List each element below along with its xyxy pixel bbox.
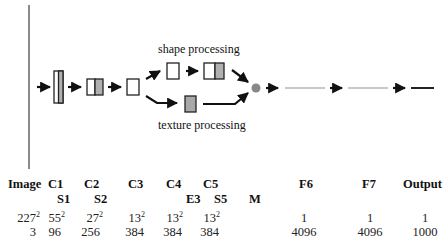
header-e3: E3	[186, 192, 201, 207]
channels-output: 1000	[410, 225, 440, 240]
header-s2: S2	[94, 192, 107, 207]
header-c2: C2	[84, 177, 99, 192]
spatial-c2: 272	[82, 211, 103, 226]
layer-c1-s1-box	[54, 71, 63, 103]
shape-processing-label: shape processing	[158, 42, 240, 57]
header-c4: C4	[166, 177, 181, 192]
arrow-texture-to-merge	[203, 93, 248, 104]
header-output: Output	[403, 177, 442, 192]
spatial-f7: 1	[360, 211, 380, 226]
header-s5: S5	[214, 192, 227, 207]
channels-c3: 384	[122, 225, 144, 240]
header-c5: C5	[203, 177, 218, 192]
spatial-output: 1	[415, 211, 435, 226]
spatial-c4: 132	[162, 211, 183, 226]
header-s1: S1	[57, 192, 70, 207]
network-diagram	[0, 0, 448, 170]
channels-image: 3	[12, 225, 36, 240]
channels-c1: 96	[44, 225, 61, 240]
channels-f7: 4096	[355, 225, 385, 240]
header-f6: F6	[299, 177, 313, 192]
spatial-f6: 1	[294, 211, 314, 226]
channels-f6: 4096	[289, 225, 319, 240]
arrow-to-texture-branch	[146, 96, 177, 103]
channels-c2: 256	[79, 225, 100, 240]
merge-node	[252, 84, 261, 93]
channels-c4: 384	[160, 225, 182, 240]
spatial-image: 2272	[12, 211, 40, 226]
layer-texture-box	[185, 96, 196, 112]
layer-c4-shape-box	[167, 63, 179, 79]
header-c1: C1	[48, 177, 63, 192]
header-m: M	[249, 192, 261, 207]
layer-c3-box	[127, 79, 139, 95]
layer-c5-shape-box	[204, 63, 224, 79]
spatial-c5: 132	[199, 211, 220, 226]
arrow-to-shape-branch	[146, 71, 160, 79]
header-c3: C3	[128, 177, 143, 192]
spatial-c1: 552	[44, 211, 65, 226]
spatial-c3: 132	[124, 211, 145, 226]
texture-processing-label: texture processing	[158, 118, 246, 133]
layer-c2-s2-box	[87, 79, 103, 95]
channels-c5: 384	[197, 225, 219, 240]
arrow-shape-to-merge	[232, 70, 248, 82]
header-image: Image	[8, 177, 41, 192]
header-f7: F7	[362, 177, 376, 192]
